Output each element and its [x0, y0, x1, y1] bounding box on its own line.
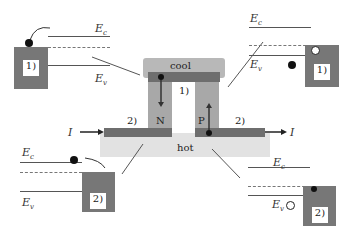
- br-box-label: 2): [312, 207, 328, 223]
- bl-ec-label: Ec: [22, 146, 34, 161]
- current-in-label: I: [68, 126, 72, 139]
- bl-fermi-line: [20, 172, 82, 173]
- tr-fermi-line: [249, 45, 311, 46]
- tr-box-label: 1): [314, 64, 330, 80]
- br-hole: [286, 201, 295, 210]
- current-out-label: I: [290, 126, 294, 139]
- tl-ev-label: Ev: [95, 72, 107, 87]
- tr-ev-line: [249, 55, 311, 56]
- tr-ev-label: Ev: [250, 58, 262, 73]
- tl-ev-line: [48, 65, 110, 66]
- bl-ev-line: [20, 191, 82, 192]
- br-ev-label: Ev: [272, 198, 284, 213]
- tl-box-label: 1): [23, 60, 39, 76]
- br-electron: [311, 186, 317, 192]
- tl-ec-label: Ec: [95, 22, 107, 37]
- br-ev-line: [248, 195, 310, 196]
- br-ec-label: Ec: [273, 156, 285, 171]
- tr-electron: [288, 61, 296, 69]
- tr-ec-label: Ec: [250, 12, 262, 27]
- tl-fermi-line: [48, 47, 110, 48]
- bl-electron: [70, 156, 78, 164]
- tl-electron: [25, 39, 33, 47]
- bl-ev-label: Ev: [22, 196, 34, 211]
- br-fermi-line: [248, 186, 310, 187]
- bl-box-label: 2): [90, 193, 106, 209]
- tr-hole: [311, 46, 320, 55]
